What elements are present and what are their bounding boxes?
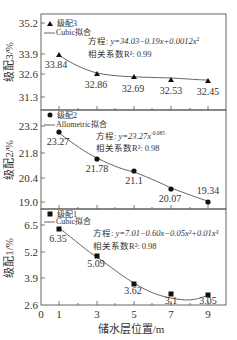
- svg-text:3: 3: [94, 308, 100, 320]
- svg-text:3.1: 3.1: [165, 295, 178, 306]
- legend-circle-icon: [48, 113, 53, 118]
- svg-text:3.05: 3.05: [199, 295, 217, 306]
- svg-text:7: 7: [168, 308, 174, 320]
- svg-text:32.45: 32.45: [197, 86, 220, 97]
- svg-text:21.8: 21.8: [19, 147, 39, 159]
- svg-text:21.1: 21.1: [125, 175, 143, 186]
- x-axis-label: 储水层位置/m: [98, 322, 165, 335]
- svg-text:31.3: 31.3: [19, 91, 39, 103]
- legend-triangle-icon: [47, 21, 53, 26]
- svg-text:相关系数R²: 0.98: 相关系数R²: 0.98: [96, 143, 160, 153]
- y-axis-label-mid: 级配2/%: [3, 140, 15, 180]
- bot-panel: 级配1 Cubic拟合 方程: y=7.01−0.60x−0.05x²+0.01…: [44, 209, 219, 306]
- svg-text:5.2: 5.2: [24, 246, 38, 258]
- svg-text:23.27: 23.27: [47, 136, 70, 147]
- svg-text:32.69: 32.69: [122, 83, 145, 94]
- svg-text:Cubic拟合: Cubic拟合: [56, 216, 91, 226]
- svg-text:9: 9: [205, 308, 211, 320]
- svg-text:方程: y=23.27x-0.085: 方程: y=23.27x-0.085: [96, 130, 165, 141]
- svg-text:3.9: 3.9: [24, 272, 38, 284]
- svg-text:19.34: 19.34: [197, 185, 220, 196]
- top-panel: 级配3 Cubic拟合 方程: y=34.03−0.19x+0.0012x2 相…: [44, 18, 219, 97]
- svg-text:19.0: 19.0: [19, 196, 39, 208]
- svg-text:5.09: 5.09: [87, 258, 105, 269]
- svg-text:32.6: 32.6: [19, 68, 39, 80]
- svg-text:20.07: 20.07: [159, 193, 182, 204]
- svg-text:20.4: 20.4: [19, 172, 39, 184]
- svg-text:相关系数R²: 0.99: 相关系数R²: 0.99: [88, 49, 152, 59]
- svg-text:Allometric拟合: Allometric拟合: [56, 119, 107, 129]
- svg-text:23.2: 23.2: [19, 120, 38, 132]
- svg-text:33.9: 33.9: [19, 48, 39, 60]
- svg-text:2.6: 2.6: [24, 299, 38, 311]
- svg-text:相关系数R²: 0.98: 相关系数R²: 0.98: [93, 241, 157, 251]
- svg-text:级配2: 级配2: [57, 110, 77, 120]
- mid-panel: 级配2 Allometric拟合 方程: y=23.27x-0.085 相关系数…: [44, 110, 219, 205]
- svg-text:6.5: 6.5: [24, 219, 38, 231]
- svg-text:1: 1: [56, 308, 62, 320]
- svg-text:32.53: 32.53: [160, 85, 183, 96]
- svg-text:5: 5: [131, 308, 137, 320]
- svg-text:32.86: 32.86: [85, 79, 108, 90]
- y-axis-label-top: 级配3/%: [3, 42, 15, 82]
- svg-text:Cubic拟合: Cubic拟合: [56, 27, 91, 37]
- y-axis-label-bot: 级配1/%: [3, 238, 15, 278]
- svg-text:33.84: 33.84: [45, 59, 68, 70]
- svg-text:方程: y=7.01−0.60x−0.05x²+0.01x³: 方程: y=7.01−0.60x−0.05x²+0.01x³: [93, 228, 219, 238]
- svg-text:6.35: 6.35: [49, 233, 67, 244]
- x-tick-labels: 0 1 3 5 7 9: [38, 308, 211, 320]
- svg-text:级配3: 级配3: [57, 18, 77, 28]
- svg-text:35.2: 35.2: [19, 17, 38, 29]
- svg-text:21.78: 21.78: [86, 163, 109, 174]
- svg-text:3.62: 3.62: [124, 285, 142, 296]
- chart-figure: 35.2 33.9 32.6 31.3 23.2 21.8 20.4 19.0 …: [0, 0, 237, 340]
- svg-text:0: 0: [38, 308, 44, 320]
- legend-square-icon: [48, 212, 53, 217]
- svg-text:方程: y=34.03−0.19x+0.0012x2: 方程: y=34.03−0.19x+0.0012x2: [88, 36, 199, 46]
- y-tick-labels: 35.2 33.9 32.6 31.3 23.2 21.8 20.4 19.0 …: [19, 17, 39, 311]
